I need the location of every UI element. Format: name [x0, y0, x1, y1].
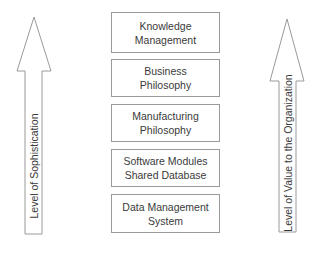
box-line-1: Manufacturing: [132, 109, 199, 123]
stack-box-business-philosophy: Business Philosophy: [111, 59, 220, 97]
box-line-2: Shared Database: [125, 168, 207, 182]
box-line-1: Software Modules: [123, 154, 207, 168]
right-arrow-label: Level of Value to the Organization: [282, 74, 294, 231]
box-line-2: Philosophy: [140, 78, 191, 92]
box-line-2: System: [148, 214, 183, 228]
stack-box-data-management-system: Data Management System: [111, 194, 220, 233]
box-line-1: Data Management: [122, 200, 208, 214]
stack-box-knowledge-management: Knowledge Management: [111, 12, 220, 53]
box-line-1: Knowledge: [140, 19, 192, 33]
box-line-2: Philosophy: [140, 123, 191, 137]
stack-box-manufacturing-philosophy: Manufacturing Philosophy: [111, 104, 220, 142]
stack-box-software-modules: Software Modules Shared Database: [111, 149, 220, 187]
left-arrow-label: Level of Sophistication: [28, 113, 40, 218]
box-line-1: Business: [144, 64, 187, 78]
box-line-2: Management: [135, 33, 196, 47]
